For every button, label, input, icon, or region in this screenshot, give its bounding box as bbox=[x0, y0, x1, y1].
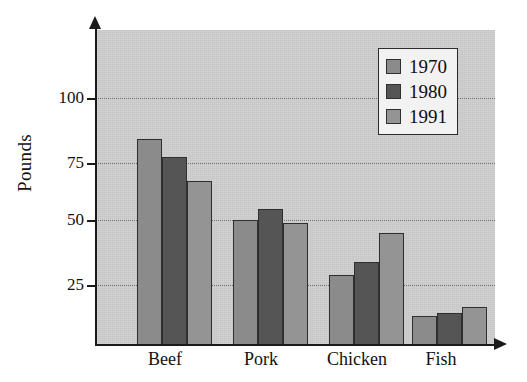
bar-chicken-1980 bbox=[354, 262, 379, 345]
bar-fish-1970 bbox=[412, 316, 437, 345]
legend-entry-1970: 1970 bbox=[386, 54, 447, 79]
y-axis-ticks: 100 75 50 25 bbox=[0, 0, 84, 382]
y-tick-mark-25 bbox=[87, 285, 97, 287]
y-tick-mark-75 bbox=[87, 163, 97, 165]
y-tick-label-100: 100 bbox=[38, 89, 84, 106]
category-label-fish: Fish bbox=[396, 349, 486, 370]
y-tick-mark-100 bbox=[87, 98, 97, 100]
bar-beef-1970 bbox=[137, 139, 162, 345]
y-axis-arrow-icon bbox=[89, 16, 101, 29]
bar-pork-1970 bbox=[233, 220, 258, 345]
y-axis-line bbox=[95, 26, 97, 346]
legend-entry-1980: 1980 bbox=[386, 79, 447, 104]
bar-chart: 100 75 50 25 Pounds Beef Pork Chicken Fi… bbox=[0, 0, 527, 382]
y-tick-mark-50 bbox=[87, 220, 97, 222]
legend-swatch-1991-icon bbox=[386, 109, 401, 124]
bar-chicken-1991 bbox=[379, 233, 404, 345]
legend-swatch-1970-icon bbox=[386, 59, 401, 74]
bar-fish-1980 bbox=[437, 313, 462, 345]
legend-entry-1991: 1991 bbox=[386, 104, 447, 129]
legend: 1970 1980 1991 bbox=[378, 48, 458, 135]
legend-label-1970: 1970 bbox=[409, 57, 447, 76]
bar-pork-1980 bbox=[258, 209, 283, 345]
legend-label-1980: 1980 bbox=[409, 82, 447, 101]
category-label-beef: Beef bbox=[120, 349, 210, 370]
category-label-pork: Pork bbox=[216, 349, 306, 370]
legend-label-1991: 1991 bbox=[409, 107, 447, 126]
y-tick-label-75: 75 bbox=[38, 154, 84, 171]
y-axis-title: Pounds bbox=[14, 113, 36, 213]
y-tick-label-25: 25 bbox=[38, 276, 84, 293]
bar-beef-1980 bbox=[162, 157, 187, 345]
bar-pork-1991 bbox=[283, 223, 308, 345]
legend-swatch-1980-icon bbox=[386, 84, 401, 99]
y-tick-label-50: 50 bbox=[38, 211, 84, 228]
x-axis-arrow-icon bbox=[494, 338, 507, 350]
bar-beef-1991 bbox=[187, 181, 212, 345]
bar-chicken-1970 bbox=[329, 275, 354, 345]
bar-fish-1991 bbox=[462, 307, 487, 345]
x-axis-line bbox=[95, 344, 495, 346]
category-label-chicken: Chicken bbox=[312, 349, 402, 370]
